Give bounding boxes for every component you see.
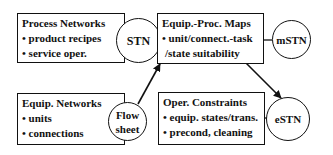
box-item: • product recipes — [22, 31, 124, 46]
node-label: sheet — [116, 122, 140, 136]
box-title: Equip. Networks — [22, 96, 124, 111]
equip-proc-maps-box: Equip.-Proc. Maps • unit/connect.-task /… — [157, 13, 264, 64]
node-label: STN — [127, 34, 150, 48]
mstn-node: mSTN — [272, 20, 311, 59]
stn-node: STN — [116, 18, 161, 63]
diagram-canvas: Process Networks • product recipes • ser… — [0, 0, 333, 155]
flowsheet-node: Flow sheet — [108, 102, 147, 141]
box-title: Equip.-Proc. Maps — [162, 16, 263, 31]
arrow-flowsheet-to-maps — [138, 64, 160, 104]
node-label: eSTN — [275, 112, 301, 126]
process-networks-box: Process Networks • product recipes • ser… — [17, 13, 125, 63]
box-item: • unit/connect.-task — [162, 31, 263, 46]
node-label: Flow — [116, 108, 139, 122]
box-title: Process Networks — [22, 16, 124, 31]
estn-node: eSTN — [266, 97, 310, 141]
box-item: • equip. states/trans. — [163, 110, 264, 125]
oper-constraints-box: Oper. Constraints • equip. states/trans.… — [158, 92, 265, 145]
box-item: • service oper. — [22, 46, 124, 61]
box-title: Oper. Constraints — [163, 95, 264, 110]
box-item: • precond, cleaning — [163, 125, 264, 140]
node-label: mSTN — [276, 33, 307, 47]
box-item: /state suitability — [162, 46, 263, 61]
